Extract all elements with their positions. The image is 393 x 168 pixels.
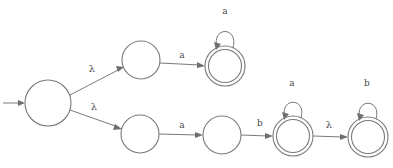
- start-arrow: [3, 100, 25, 106]
- automaton-diagram: λ λ a a b λ a a b: [0, 0, 393, 168]
- transition-label-q0-q3: λ: [91, 101, 98, 112]
- self-loop-label-q6: b: [364, 78, 370, 88]
- transition-label-q5-q6: λ: [326, 119, 333, 130]
- automaton-canvas: λ λ a a b λ a a b: [0, 0, 393, 168]
- state-q5-accepting[interactable]: [273, 116, 313, 156]
- transition-q3-q4: [159, 132, 203, 138]
- transition-label-q0-q1: λ: [89, 63, 96, 74]
- self-loop-label-q5: a: [289, 78, 295, 88]
- state-q0[interactable]: [25, 80, 71, 126]
- self-loop-label-q2: a: [222, 6, 228, 16]
- transition-q4-q5: [241, 133, 273, 139]
- transition-q1-q2: [160, 62, 205, 68]
- transition-label-q1-q2: a: [179, 50, 185, 60]
- state-q1[interactable]: [122, 41, 160, 79]
- transition-label-q3-q4: a: [179, 120, 185, 130]
- state-q6-accepting[interactable]: [348, 117, 388, 157]
- state-q2-accepting[interactable]: [205, 46, 245, 86]
- transition-label-q4-q5: b: [257, 118, 263, 128]
- transition-q5-q6: [313, 134, 348, 140]
- transition-q0-q3: [70, 110, 122, 130]
- state-q4[interactable]: [203, 116, 241, 154]
- state-q3[interactable]: [121, 115, 159, 153]
- transition-q0-q1: [70, 66, 124, 95]
